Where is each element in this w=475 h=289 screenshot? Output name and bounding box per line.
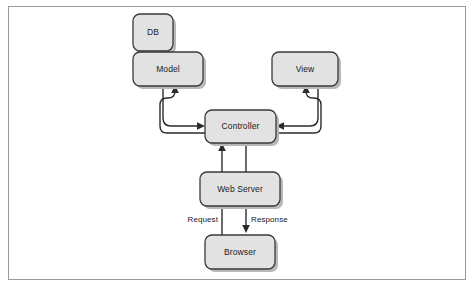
node-webserver[interactable]: Web Server [200,172,283,209]
view-label: View [296,64,315,74]
node-view[interactable]: View [272,52,341,89]
request-label: Request [188,215,219,224]
node-model[interactable]: Model [133,52,206,89]
node-db[interactable]: DB [133,14,176,54]
model-label: Model [156,64,180,74]
arrowhead-down-browser-response [242,225,250,233]
figure-root: DB Model View Controller Web Server [0,0,475,289]
controller-label: Controller [222,121,260,131]
edge-model-to-controller [163,87,205,130]
browser-label: Browser [224,247,256,257]
arrowhead-right-controller [197,122,205,130]
response-label: Response [251,215,288,224]
mvc-flow-diagram: DB Model View Controller Web Server [0,0,475,289]
db-label: DB [147,27,159,37]
edge-view-to-controller [276,87,318,130]
node-controller[interactable]: Controller [205,110,279,146]
webserver-label: Web Server [217,184,263,194]
node-browser[interactable]: Browser [205,235,278,272]
